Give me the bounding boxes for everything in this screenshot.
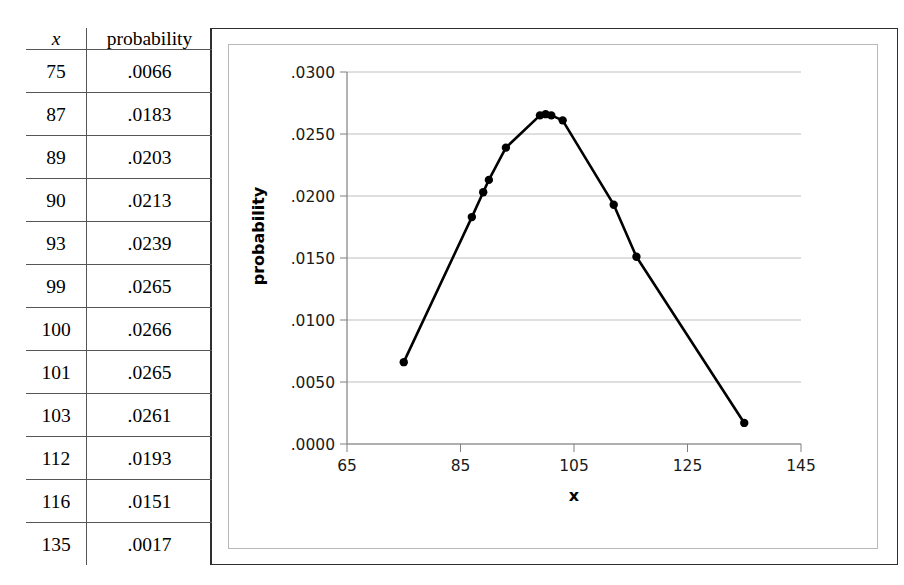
data-point-marker [502, 143, 510, 151]
table-row: 116.0151 [26, 480, 212, 523]
data-point-marker [479, 188, 487, 196]
table-cell-x: 93 [26, 222, 87, 265]
data-point-marker [400, 358, 408, 366]
table-cell-probability: .0265 [87, 265, 213, 308]
table-row: 99.0265 [26, 265, 212, 308]
table-row: 89.0203 [26, 136, 212, 179]
x-tick-label: 105 [559, 457, 589, 475]
table-row: 75.0066 [26, 50, 212, 93]
x-axis-title: x [569, 486, 580, 505]
data-series-line [404, 114, 745, 423]
table-cell-x: 101 [26, 351, 87, 394]
table-cell-probability: .0193 [87, 437, 213, 480]
y-tick-label: .0250 [291, 126, 335, 144]
table-header-row: x probability [26, 28, 212, 50]
probability-distribution-chart: .0000.0050.0100.0150.0200.0250.030065851… [228, 44, 878, 549]
table-cell-x: 112 [26, 437, 87, 480]
data-point-marker [610, 200, 618, 208]
data-point-marker [740, 419, 748, 427]
data-point-marker [485, 176, 493, 184]
table-row: 90.0213 [26, 179, 212, 222]
y-tick-label: .0300 [291, 64, 335, 82]
table-body: 75.006687.018389.020390.021393.023999.02… [26, 50, 212, 565]
table-cell-probability: .0266 [87, 308, 213, 351]
table-row: 135.0017 [26, 523, 212, 565]
table-cell-probability: .0213 [87, 179, 213, 222]
x-tick-label: 125 [673, 457, 703, 475]
data-point-marker [558, 116, 566, 124]
data-point-marker [468, 213, 476, 221]
table-cell-probability: .0151 [87, 480, 213, 523]
table-cell-probability: .0203 [87, 136, 213, 179]
x-tick-label: 145 [786, 457, 816, 475]
table-row: 103.0261 [26, 394, 212, 437]
table-row: 93.0239 [26, 222, 212, 265]
table-cell-x: 89 [26, 136, 87, 179]
y-tick-label: .0000 [291, 436, 335, 454]
figure-page: x probability 75.006687.018389.020390.02… [0, 0, 904, 585]
table-cell-probability: .0017 [87, 523, 213, 565]
table-cell-x: 87 [26, 93, 87, 136]
table-cell-x: 90 [26, 179, 87, 222]
table-cell-x: 135 [26, 523, 87, 565]
table-cell-x: 100 [26, 308, 87, 351]
table-cell-probability: .0261 [87, 394, 213, 437]
table-cell-x: 75 [26, 50, 87, 93]
table-cell-probability: .0239 [87, 222, 213, 265]
table-cell-x: 99 [26, 265, 87, 308]
table-row: 101.0265 [26, 351, 212, 394]
y-axis-title: probability [249, 186, 268, 285]
probability-table: x probability 75.006687.018389.020390.02… [26, 28, 212, 565]
y-tick-label: .0050 [291, 374, 335, 392]
table-cell-x: 116 [26, 480, 87, 523]
table-header-probability: probability [87, 28, 213, 50]
data-point-marker [632, 253, 640, 261]
table-row: 100.0266 [26, 308, 212, 351]
x-tick-label: 65 [337, 457, 357, 475]
data-point-marker [547, 111, 555, 119]
y-tick-label: .0200 [291, 188, 335, 206]
table-row: 112.0193 [26, 437, 212, 480]
table-row: 87.0183 [26, 93, 212, 136]
table-cell-probability: .0066 [87, 50, 213, 93]
table-cell-probability: .0183 [87, 93, 213, 136]
y-tick-label: .0100 [291, 312, 335, 330]
table-cell-probability: .0265 [87, 351, 213, 394]
probability-table-container: x probability 75.006687.018389.020390.02… [26, 28, 212, 565]
x-tick-label: 85 [451, 457, 471, 475]
table-header-x: x [26, 28, 87, 50]
y-tick-label: .0150 [291, 250, 335, 268]
table-cell-x: 103 [26, 394, 87, 437]
